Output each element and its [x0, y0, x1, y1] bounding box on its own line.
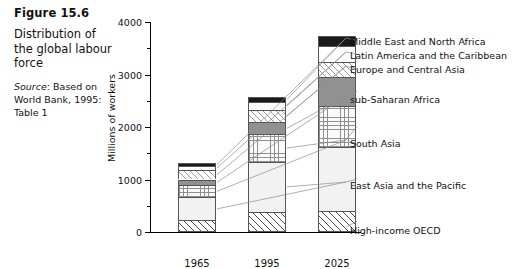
- y-minor-tick-3500: [147, 48, 150, 49]
- y-minor-tick-1500: [147, 153, 150, 154]
- y-minor-tick-500: [147, 206, 150, 207]
- y-tick-label-3000: 3000: [118, 69, 142, 80]
- bar-segment-1965-0: [178, 220, 216, 232]
- bar-segment-1965-1: [178, 197, 216, 220]
- plot-area: 01000200030004000 196519952025: [150, 22, 360, 232]
- x-axis-label-2025: 2025: [324, 258, 349, 269]
- y-axis-title: Millions of workers: [106, 74, 117, 162]
- bar-segment-1995-0: [248, 212, 286, 232]
- bar-segment-1995-2: [248, 134, 286, 161]
- figure-number: Figure 15.6: [14, 6, 114, 20]
- legend-item-5: East Asia and the Pacific: [350, 180, 466, 191]
- bar-1995: [248, 22, 286, 232]
- legend-item-4: South Asia: [350, 138, 401, 149]
- y-tick-4000: [145, 22, 150, 23]
- bar-segment-1965-5: [178, 166, 216, 170]
- bar-segment-1995-4: [248, 110, 286, 123]
- bar-segment-2025-1: [318, 147, 356, 211]
- figure-source: Source: Based on World Bank, 1995: Table…: [14, 80, 114, 119]
- y-tick-label-1000: 1000: [118, 174, 142, 185]
- legend-item-2: Europe and Central Asia: [350, 64, 465, 75]
- bar-segment-1995-3: [248, 122, 286, 134]
- y-tick-label-0: 0: [136, 227, 142, 238]
- bar-segment-1995-6: [248, 97, 286, 103]
- legend-item-0: Middle East and North Africa: [350, 36, 486, 47]
- bar-segment-1965-2: [178, 185, 216, 197]
- x-axis-line: [150, 232, 361, 233]
- bar-1965: [178, 22, 216, 232]
- figure-caption: Figure 15.6 Distribution of the global l…: [14, 6, 114, 119]
- y-tick-label-4000: 4000: [118, 17, 142, 28]
- y-axis-line: [150, 22, 151, 233]
- legend-item-6: High-income OECD: [350, 225, 441, 236]
- legend-item-3: sub-Saharan Africa: [350, 94, 440, 105]
- legend-item-1: Latin America and the Caribbean: [350, 50, 507, 61]
- y-tick-0: [145, 232, 150, 233]
- y-minor-tick-2500: [147, 101, 150, 102]
- figure-root: Figure 15.6 Distribution of the global l…: [0, 0, 515, 269]
- y-tick-3000: [145, 75, 150, 76]
- bar-segment-1995-5: [248, 102, 286, 109]
- bar-segment-1965-4: [178, 170, 216, 179]
- bar-segment-1965-6: [178, 163, 216, 166]
- source-label: Source: [14, 81, 47, 92]
- x-axis-label-1965: 1965: [184, 258, 209, 269]
- y-tick-1000: [145, 180, 150, 181]
- y-tick-2000: [145, 127, 150, 128]
- x-axis-label-1995: 1995: [254, 258, 279, 269]
- figure-description: Distribution of the global labour force: [14, 27, 114, 71]
- bar-segment-1995-1: [248, 162, 286, 212]
- y-tick-label-2000: 2000: [118, 122, 142, 133]
- bar-segment-1965-3: [178, 180, 216, 186]
